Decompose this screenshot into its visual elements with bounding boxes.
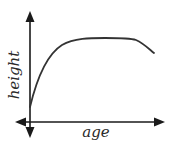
arrow-left-icon <box>15 118 26 127</box>
arrow-up-icon <box>26 11 35 22</box>
arrow-down-icon <box>26 127 35 138</box>
y-axis-label: height <box>5 50 23 100</box>
height-curve <box>30 38 154 107</box>
x-axis-label: age <box>82 123 110 141</box>
arrow-right-icon <box>154 118 165 127</box>
height-vs-age-chart: height age <box>0 0 174 147</box>
y-axis <box>26 11 35 138</box>
